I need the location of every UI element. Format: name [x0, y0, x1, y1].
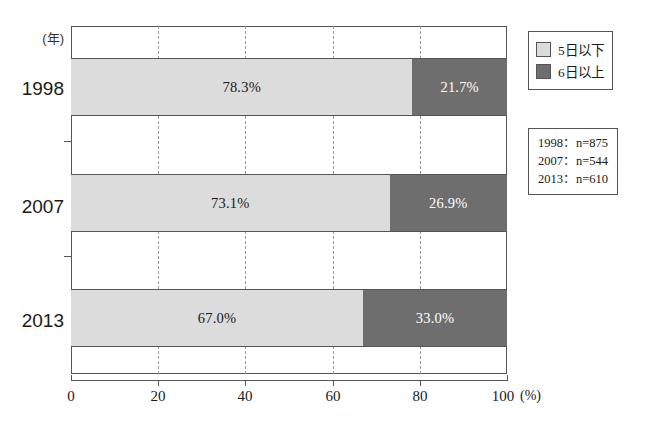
- y-axis-label-2007: 2007: [12, 196, 64, 218]
- legend-item-6days-or-more[interactable]: 6日以上: [536, 61, 604, 81]
- stacked-bar-chart: 78.3% 21.7% 73.1% 26.9% 67.0% 33.0%: [71, 26, 507, 374]
- sample-size-2013: 2013：n=610: [538, 170, 608, 188]
- x-axis-label-0: 0: [67, 388, 75, 405]
- sample-size-1998: 1998：n=875: [538, 134, 608, 152]
- legend-label-6days-or-more: 6日以上: [558, 61, 604, 81]
- x-axis: [71, 380, 507, 381]
- y-axis-unit-label: (年): [12, 28, 64, 47]
- x-axis-cap-left: [71, 375, 72, 381]
- x-axis-tick-20: [158, 380, 159, 386]
- bar-segment-2013-5days-or-less[interactable]: 67.0%: [71, 290, 363, 346]
- bar-segment-1998-6days-or-more[interactable]: 21.7%: [412, 59, 507, 115]
- legend-item-5days-or-less[interactable]: 5日以下: [536, 39, 604, 59]
- y-axis-label-1998: 1998: [12, 78, 64, 100]
- table-row: 78.3% 21.7%: [71, 58, 507, 116]
- bar-segment-2007-6days-or-more[interactable]: 26.9%: [390, 175, 507, 231]
- y-axis-tick-1: [64, 141, 71, 142]
- x-axis-label-80: 80: [413, 388, 428, 405]
- legend: 5日以下 6日以上: [528, 31, 613, 90]
- x-axis-label-100: 100: [492, 388, 515, 405]
- x-axis-tick-40: [245, 380, 246, 386]
- x-axis-label-40: 40: [238, 388, 253, 405]
- x-axis-label-20: 20: [151, 388, 166, 405]
- sample-size-note: 1998：n=875 2007：n=544 2013：n=610: [528, 128, 618, 195]
- x-axis-tick-60: [333, 380, 334, 386]
- x-axis-unit-label: (%): [520, 388, 541, 404]
- table-row: 67.0% 33.0%: [71, 289, 507, 347]
- bar-segment-2013-6days-or-more[interactable]: 33.0%: [363, 290, 507, 346]
- legend-swatch-icon-dark: [536, 64, 551, 79]
- bar-segment-1998-5days-or-less[interactable]: 78.3%: [71, 59, 412, 115]
- x-axis-label-60: 60: [326, 388, 341, 405]
- sample-size-2007: 2007：n=544: [538, 152, 608, 170]
- legend-swatch-icon-light: [536, 42, 551, 57]
- x-axis-tick-80: [420, 380, 421, 386]
- legend-label-5days-or-less: 5日以下: [558, 39, 604, 59]
- y-axis-tick-2: [64, 256, 71, 257]
- table-row: 73.1% 26.9%: [71, 174, 507, 232]
- bar-segment-2007-5days-or-less[interactable]: 73.1%: [71, 175, 390, 231]
- y-axis-label-2013: 2013: [12, 310, 64, 332]
- x-axis-cap-right: [507, 375, 508, 381]
